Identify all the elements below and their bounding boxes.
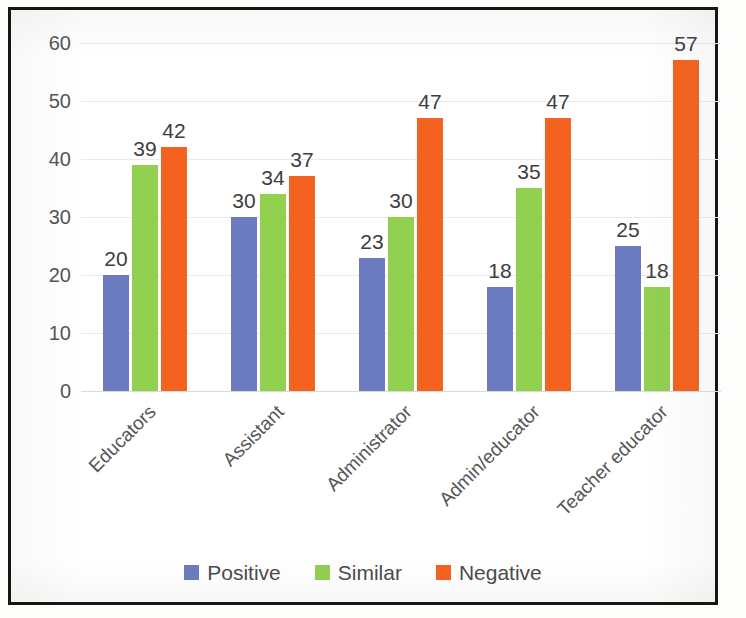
legend-label: Positive xyxy=(207,562,281,583)
bar-similar-assistant[interactable] xyxy=(260,194,286,391)
bar-value-label: 42 xyxy=(152,120,196,141)
legend-item-positive[interactable]: Positive xyxy=(184,562,281,583)
bar-value-label: 47 xyxy=(408,91,452,112)
legend-label: Negative xyxy=(459,562,542,583)
y-axis-tick-labels: 0102030405060 xyxy=(25,43,71,391)
bar-similar-administrator[interactable] xyxy=(388,217,414,391)
x-axis-label-admin-educator: Admin/educator xyxy=(423,401,545,523)
y-axis-tick-0: 0 xyxy=(27,381,71,401)
y-axis-tick-60: 60 xyxy=(27,33,71,53)
y-axis-tick-10: 10 xyxy=(27,323,71,343)
y-axis-tick-50: 50 xyxy=(27,91,71,111)
bar-positive-assistant[interactable] xyxy=(231,217,257,391)
bar-negative-teacher-educator[interactable] xyxy=(673,60,699,391)
legend-swatch-icon xyxy=(436,565,451,580)
bar-similar-educators[interactable] xyxy=(132,165,158,391)
bar-negative-assistant[interactable] xyxy=(289,176,315,391)
x-axis-label-administrator: Administrator xyxy=(295,401,417,523)
y-axis-tick-40: 40 xyxy=(27,149,71,169)
bar-negative-admin-educator[interactable] xyxy=(545,118,571,391)
bar-positive-administrator[interactable] xyxy=(359,258,385,391)
bar-positive-educators[interactable] xyxy=(103,275,129,391)
gridline-50 xyxy=(81,101,721,102)
bar-negative-administrator[interactable] xyxy=(417,118,443,391)
bar-negative-educators[interactable] xyxy=(161,147,187,391)
bar-value-label: 37 xyxy=(280,149,324,170)
bar-similar-admin-educator[interactable] xyxy=(516,188,542,391)
bar-value-label: 25 xyxy=(606,219,650,240)
x-axis-category-labels: EducatorsAssistantAdministratorAdmin/edu… xyxy=(81,391,721,551)
legend-label: Similar xyxy=(338,562,402,583)
chart-figure-frame: 0102030405060 20394230343723304718354725… xyxy=(8,7,718,605)
gridline-60 xyxy=(81,43,721,44)
legend-swatch-icon xyxy=(315,565,330,580)
x-axis-label-teacher-educator: Teacher educator xyxy=(551,401,673,523)
bar-value-label: 47 xyxy=(536,91,580,112)
legend-item-negative[interactable]: Negative xyxy=(436,562,542,583)
bar-similar-teacher-educator[interactable] xyxy=(644,287,670,391)
legend-swatch-icon xyxy=(184,565,199,580)
x-axis-label-assistant: Assistant xyxy=(167,401,289,523)
x-axis-label-educators: Educators xyxy=(39,401,161,523)
legend-item-similar[interactable]: Similar xyxy=(315,562,402,583)
y-axis-tick-30: 30 xyxy=(27,207,71,227)
bar-positive-admin-educator[interactable] xyxy=(487,287,513,391)
bar-value-label: 57 xyxy=(664,33,708,54)
y-axis-tick-20: 20 xyxy=(27,265,71,285)
chart-legend: PositiveSimilarNegative xyxy=(11,562,715,583)
scanned-page: 0102030405060 20394230343723304718354725… xyxy=(0,0,746,618)
plot-area: 203942303437233047183547251857 xyxy=(81,43,721,391)
